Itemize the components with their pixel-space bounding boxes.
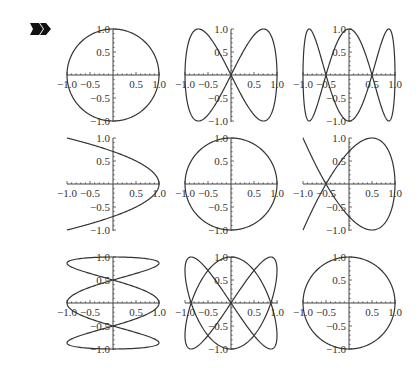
x-tick-label: 0.5 [365, 187, 379, 199]
plot-panel-4: −1.0−0.50.51.01.00.5−0.5−1.0 [57, 132, 166, 236]
x-tick-label: 0.5 [247, 306, 261, 318]
y-tick-label: 1.0 [332, 23, 346, 35]
x-tick-label: −0.5 [80, 187, 100, 199]
plot-panel-5: −1.0−0.50.51.01.00.5−0.5−1.0 [175, 132, 284, 236]
y-tick-label: −1.0 [208, 115, 228, 127]
y-tick-label: −1.0 [90, 224, 110, 236]
y-tick-label: −0.5 [90, 201, 110, 213]
plot-panel-3: −1.0−0.50.51.01.00.5−0.5−1.0 [293, 23, 402, 127]
x-tick-label: −1.0 [57, 187, 77, 199]
y-tick-label: −1.0 [326, 115, 346, 127]
y-tick-label: 1.0 [214, 23, 228, 35]
x-tick-label: −0.5 [80, 78, 100, 90]
y-tick-label: 0.5 [214, 155, 228, 167]
y-tick-label: −0.5 [326, 92, 346, 104]
y-tick-label: −0.5 [90, 92, 110, 104]
x-tick-label: 1.0 [152, 187, 166, 199]
y-tick-label: 0.5 [214, 274, 228, 286]
y-tick-label: 0.5 [96, 46, 110, 58]
x-tick-label: 0.5 [365, 78, 379, 90]
x-tick-label: 0.5 [247, 187, 261, 199]
y-tick-label: 1.0 [332, 132, 346, 144]
y-tick-label: −0.5 [208, 201, 228, 213]
x-tick-label: −0.5 [198, 78, 218, 90]
y-tick-label: −0.5 [326, 201, 346, 213]
plot-panel-7: −1.0−0.50.51.01.00.5−0.5−1.0 [57, 251, 166, 355]
x-tick-label: −1.0 [293, 187, 313, 199]
x-tick-label: 0.5 [365, 306, 379, 318]
y-tick-label: 0.5 [96, 155, 110, 167]
x-tick-label: 0.5 [129, 78, 143, 90]
parametric-plot-grid: −1.0−0.50.51.01.00.5−0.5−1.0−1.0−0.50.51… [0, 0, 420, 390]
y-tick-label: 1.0 [96, 132, 110, 144]
plot-panel-1: −1.0−0.50.51.01.00.5−0.5−1.0 [57, 23, 166, 127]
x-tick-label: −0.5 [316, 78, 336, 90]
x-tick-label: −0.5 [316, 306, 336, 318]
y-tick-label: −0.5 [326, 320, 346, 332]
x-tick-label: −0.5 [198, 306, 218, 318]
plot-panel-6: −1.0−0.50.51.01.00.5−0.5−1.0 [293, 132, 402, 236]
x-tick-label: 0.5 [129, 187, 143, 199]
x-tick-label: 1.0 [152, 306, 166, 318]
plot-panel-9: −1.0−0.50.51.01.00.5−0.5−1.0 [293, 251, 402, 355]
x-tick-label: −0.5 [198, 187, 218, 199]
plot-panel-2: −1.0−0.50.51.01.00.5−0.5−1.0 [175, 23, 284, 127]
y-tick-label: −1.0 [326, 224, 346, 236]
y-tick-label: −0.5 [208, 92, 228, 104]
x-tick-label: 0.5 [247, 78, 261, 90]
plot-panel-8: −1.0−0.50.51.01.00.5−0.5−1.0 [175, 251, 284, 355]
y-tick-label: 0.5 [332, 274, 346, 286]
